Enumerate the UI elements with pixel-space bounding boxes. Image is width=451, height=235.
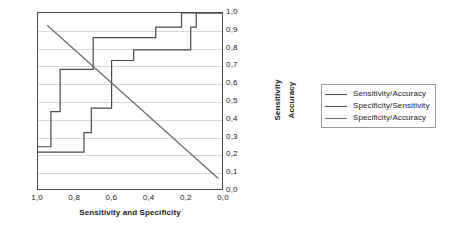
- roc-chart: 0,00,10,20,30,40,50,60,70,80,91,0 1,00,8…: [0, 0, 451, 235]
- x-axis-title: Sensitivity and Specificity: [37, 208, 223, 217]
- x-axis-tick-label: 0,8: [68, 194, 80, 202]
- y-axis-tick-label: 0,3: [226, 133, 238, 141]
- legend-item[interactable]: Specificity/Accuracy: [325, 112, 430, 124]
- y-axis-tick-label: 0,4: [226, 115, 238, 123]
- legend-item-label: Specificity/Sensitivity: [353, 102, 430, 110]
- legend-swatch-icon: [325, 118, 347, 119]
- legend-item[interactable]: Specificity/Sensitivity: [325, 100, 430, 112]
- legend-swatch-icon: [325, 106, 347, 107]
- legend-swatch-icon: [325, 94, 347, 95]
- series-line-1: [38, 13, 222, 152]
- y-axis-tick-label: 0,9: [226, 26, 238, 34]
- y-axis-tick-label: 0,2: [226, 150, 238, 158]
- series-line-0: [38, 13, 222, 147]
- legend-item-label: Sensitivity/Accuracy: [353, 90, 426, 98]
- y-axis-tick-label: 0,8: [226, 44, 238, 52]
- x-axis-tick-label: 0,0: [217, 194, 229, 202]
- x-axis-tick-label: 0,6: [106, 194, 118, 202]
- y-axis-title-word-accuracy: Accuracy: [287, 82, 296, 119]
- y-axis-tick-label: 0,1: [226, 168, 238, 176]
- series-layer: [38, 13, 222, 189]
- x-axis-tick-label: 1,0: [31, 194, 43, 202]
- y-axis-title-word-sensitivity: Sensitivity: [273, 79, 282, 120]
- plot-area: [37, 12, 223, 190]
- y-axis-title: Sensitivity Accuracy: [246, 63, 320, 137]
- y-axis-tick-label: 0,6: [226, 79, 238, 87]
- y-axis-tick-label: 0,7: [226, 61, 238, 69]
- legend: Sensitivity/AccuracySpecificity/Sensitiv…: [321, 84, 436, 128]
- series-line-2: [47, 25, 218, 178]
- y-axis-tick-label: 1,0: [226, 8, 238, 16]
- legend-item[interactable]: Sensitivity/Accuracy: [325, 88, 430, 100]
- legend-item-label: Specificity/Accuracy: [353, 114, 426, 122]
- x-axis-tick-label: 0,4: [143, 194, 155, 202]
- x-axis-tick-label: 0,2: [180, 194, 192, 202]
- y-axis-tick-label: 0,5: [226, 97, 238, 105]
